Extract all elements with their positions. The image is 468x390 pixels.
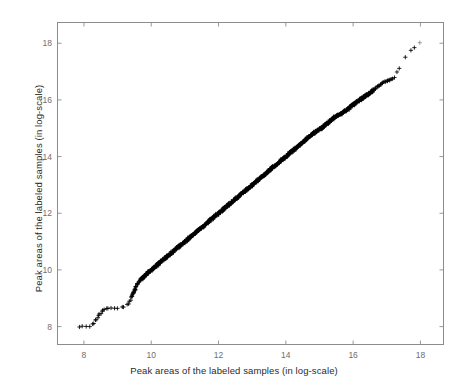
y-axis-label: Peak areas of the labeled samples (in lo… — [33, 39, 44, 339]
x-tick-label: 14 — [281, 350, 290, 360]
scatter-plot-area — [57, 22, 444, 345]
x-tick-label: 16 — [348, 350, 357, 360]
x-tick-label: 10 — [146, 350, 155, 360]
x-tick-label: 8 — [82, 350, 87, 360]
figure: 81012141618 81012141618 Peak areas of th… — [0, 0, 468, 390]
x-axis-label: Peak areas of the labeled samples (in lo… — [0, 365, 468, 376]
data-points — [77, 41, 422, 330]
x-tick-label: 18 — [416, 350, 425, 360]
x-tick-label: 12 — [214, 350, 223, 360]
scatter-points-layer — [57, 22, 444, 345]
y-axis-label-container: Peak areas of the labeled samples (in lo… — [8, 0, 28, 367]
